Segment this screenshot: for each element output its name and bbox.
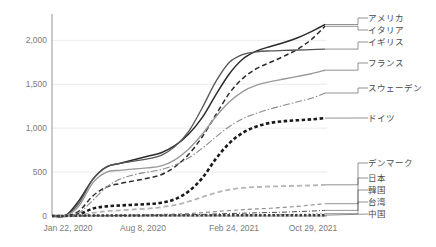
x-tick-label: Feb 24, 2021 xyxy=(209,223,259,233)
legend-label-3: フランス xyxy=(368,58,404,68)
legend-leader-7 xyxy=(325,178,368,204)
legend-label-6: デンマーク xyxy=(368,158,413,168)
legend-leader-2 xyxy=(325,42,368,49)
legend-leader-6 xyxy=(325,163,368,185)
legend-label-7: 日本 xyxy=(368,173,386,183)
legend-leader-lines xyxy=(325,18,368,215)
y-tick-label: 500 xyxy=(33,167,47,177)
legend-label-9: 台湾 xyxy=(368,197,386,207)
x-tick-label: Jan 22, 2020 xyxy=(43,223,92,233)
line-chart-container: 05001,0001,5002,000 Jan 22, 2020Aug 8, 2… xyxy=(0,0,436,247)
y-tick-label: 1,000 xyxy=(26,123,48,133)
series-line-6 xyxy=(52,185,325,216)
legend: アメリカイタリアイギリスフランススウェーデンドイツデンマーク日本韓国台湾中国 xyxy=(368,13,422,219)
legend-label-4: スウェーデン xyxy=(368,83,422,93)
legend-leader-4 xyxy=(325,88,368,93)
legend-label-2: イギリス xyxy=(368,37,404,47)
series-lines xyxy=(52,25,325,217)
y-axis-tick-labels: 05001,0001,5002,000 xyxy=(26,35,48,221)
y-tick-label: 2,000 xyxy=(26,35,48,45)
legend-leader-10 xyxy=(325,214,368,215)
x-axis-tick-labels: Jan 22, 2020Aug 8, 2020Feb 24, 2021Oct 2… xyxy=(43,223,337,233)
legend-leader-8 xyxy=(325,190,368,210)
legend-label-1: イタリア xyxy=(368,25,404,35)
x-tick-label: Aug 8, 2020 xyxy=(120,223,166,233)
legend-leader-1 xyxy=(325,26,368,30)
gridlines xyxy=(52,40,327,172)
legend-leader-3 xyxy=(325,63,368,70)
chart-svg: 05001,0001,5002,000 Jan 22, 2020Aug 8, 2… xyxy=(0,0,436,247)
series-line-3 xyxy=(52,70,325,216)
legend-label-0: アメリカ xyxy=(368,13,404,23)
y-tick-label: 0 xyxy=(42,211,47,221)
legend-leader-0 xyxy=(325,18,368,25)
legend-label-8: 韓国 xyxy=(368,185,386,195)
legend-label-5: ドイツ xyxy=(368,113,395,123)
y-tick-label: 1,500 xyxy=(26,79,48,89)
legend-label-10: 中国 xyxy=(368,209,386,219)
x-tick-label: Oct 29, 2021 xyxy=(289,223,338,233)
